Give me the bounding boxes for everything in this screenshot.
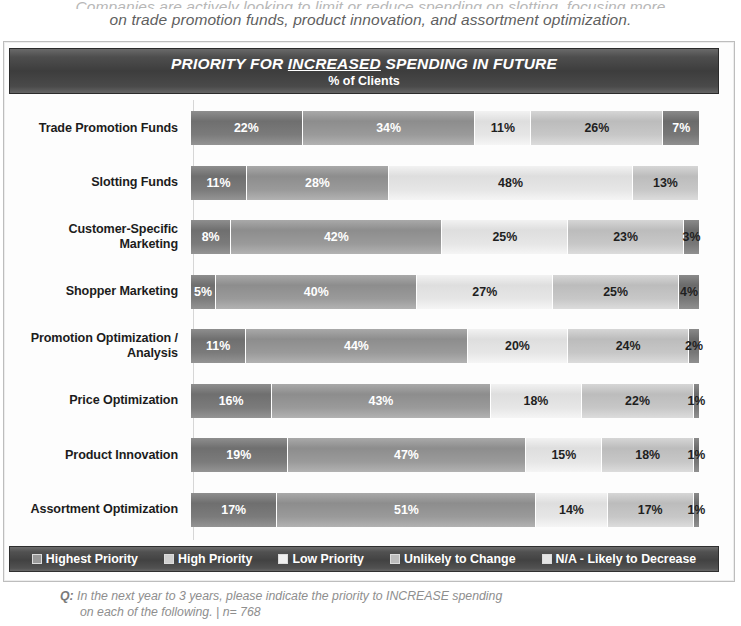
bar-segment-value: 16% [219,394,244,408]
category-label: Price Optimization [4,393,187,408]
legend-item-low-priority[interactable]: Low Priority [278,552,364,566]
bar-segment-value: 25% [603,285,628,299]
legend-label-unlikely-to-change: Unlikely to Change [404,552,516,566]
legend-swatch-highest-priority [32,554,42,564]
bar-segment-value: 22% [625,394,650,408]
bar-segment: 27% [417,275,553,309]
bar-segment-value: 1% [687,503,705,517]
bar-segment: 11% [191,329,246,363]
bar-segment: 20% [468,329,569,363]
bar-segment-value: 17% [638,503,663,517]
bar-segment: 17% [608,493,694,527]
bar-segment-value: 11% [491,121,515,135]
bar-segment: 7% [663,111,699,145]
bar-segment-value: 51% [394,503,419,517]
category-label-line: Marketing [4,237,178,252]
bar-segment-value: 7% [672,121,690,135]
bar-segment-value: 18% [635,448,660,462]
stacked-bar: 8%42%25%23%3% [191,220,699,254]
bar-segment: 25% [442,220,568,254]
bar-segment: 11% [475,111,531,145]
legend-item-na-likely-to-decrease[interactable]: N/A - Likely to Decrease [542,552,697,566]
bar-segment-value: 8% [202,230,220,244]
bar-segment-value: 15% [551,448,576,462]
bar-segment: 5% [191,275,216,309]
bar-row: Slotting Funds11%28%48%13% [4,157,736,209]
chart-subtitle: % of Clients [328,73,400,89]
stacked-bar: 19%47%15%18%1% [191,438,699,472]
category-label-line: Trade Promotion Funds [4,121,178,136]
bar-segment-value: 17% [221,503,246,517]
bar-segment: 23% [568,220,684,254]
bar-segment-value: 11% [206,339,230,353]
chart-title: PRIORITY FOR INCREASED SPENDING IN FUTUR… [171,54,557,73]
bar-segment-value: 14% [559,503,584,517]
chart-title-banner: PRIORITY FOR INCREASED SPENDING IN FUTUR… [9,48,719,94]
chart-title-suffix: SPENDING IN FUTURE [381,55,557,72]
bar-segment: 17% [191,493,277,527]
category-label: Trade Promotion Funds [4,121,187,136]
bar-segment: 22% [582,384,694,418]
chart-page: Companies are actively looking to limit … [0,0,741,626]
legend-item-unlikely-to-change[interactable]: Unlikely to Change [390,552,516,566]
bar-segment: 16% [191,384,272,418]
stacked-bar: 16%43%18%22%1% [191,384,699,418]
bar-segment: 4% [679,275,699,309]
bar-segment-value: 40% [304,285,329,299]
category-label: Slotting Funds [4,175,187,190]
footnote-line-1: Q: In the next year to 3 years, please i… [60,588,700,604]
bar-segment-value: 1% [687,394,705,408]
bar-segment-value: 2% [685,339,703,353]
category-label-line: Shopper Marketing [4,284,178,299]
bar-segment-value: 20% [505,339,530,353]
legend-item-highest-priority[interactable]: Highest Priority [32,552,138,566]
bar-segment-value: 34% [376,121,401,135]
bar-segment-value: 19% [226,448,251,462]
footnote-question-marker: Q: [60,589,74,603]
legend-item-high-priority[interactable]: High Priority [164,552,252,566]
bar-segment: 51% [277,493,536,527]
stacked-bar: 11%28%48%13% [191,166,699,200]
bar-segment-value: 18% [524,394,549,408]
intro-paragraph: Companies are actively looking to limit … [0,0,741,31]
bar-segment: 13% [633,166,699,200]
bar-segment-value: 23% [613,230,638,244]
bar-row: Shopper Marketing5%40%27%25%4% [4,266,736,318]
category-label-line: Price Optimization [4,393,178,408]
bar-segment: 22% [191,111,303,145]
bar-segment-value: 42% [324,230,349,244]
chart-panel: PRIORITY FOR INCREASED SPENDING IN FUTUR… [3,41,735,582]
category-label-line: Promotion Optimization / [4,331,178,346]
legend-swatch-unlikely-to-change [390,554,400,564]
bar-segment: 11% [191,166,247,200]
category-label-line: Product Innovation [4,448,178,463]
bar-segment: 24% [568,329,689,363]
bar-segment: 3% [684,220,699,254]
legend-swatch-low-priority [278,554,288,564]
bar-segment: 48% [389,166,633,200]
bar-segment-value: 11% [206,176,230,190]
bar-segment-value: 5% [194,285,212,299]
bar-segment: 18% [491,384,582,418]
bar-segment: 1% [694,493,699,527]
bar-segment: 44% [246,329,467,363]
bar-segment: 28% [247,166,389,200]
stacked-bar: 22%34%11%26%7% [191,111,699,145]
category-label-line: Customer-Specific [4,222,178,237]
legend-label-low-priority: Low Priority [292,552,364,566]
bar-segment: 2% [689,329,699,363]
footnote-question-text: In the next year to 3 years, please indi… [77,589,502,603]
chart-footnote: Q: In the next year to 3 years, please i… [60,588,700,620]
bar-segment: 25% [553,275,679,309]
bar-segment: 1% [694,384,699,418]
bar-segment: 47% [288,438,527,472]
bar-segment-value: 28% [305,176,330,190]
stacked-bar: 17%51%14%17%1% [191,493,699,527]
category-label: Promotion Optimization /Analysis [4,331,187,361]
plot-area: Trade Promotion Funds22%34%11%26%7%Slott… [4,100,736,540]
bar-row: Trade Promotion Funds22%34%11%26%7% [4,102,736,154]
bar-segment: 43% [272,384,490,418]
bar-segment: 40% [216,275,417,309]
category-label: Product Innovation [4,448,187,463]
category-label: Customer-SpecificMarketing [4,222,187,252]
